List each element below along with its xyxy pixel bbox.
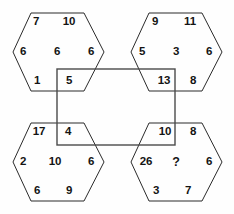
hex-top-left-center: 6 (46, 46, 68, 58)
hex-bottom-left-center: 10 (44, 156, 66, 168)
hex-bottom-right-corner-left: 26 (135, 156, 157, 168)
hex-bottom-left-corner-bottom-right: 9 (58, 185, 80, 197)
hex-bottom-left-corner-bottom-left: 6 (26, 185, 48, 197)
hex-top-right-corner-top-left: 9 (144, 16, 166, 28)
hex-bottom-right-corner-top-right: 8 (182, 126, 204, 138)
hex-top-right-corner-bottom-left: 13 (153, 75, 175, 87)
hexagon-puzzle-figure: 7 10 6 6 6 1 5 9 11 5 3 6 13 8 17 4 2 10… (0, 0, 234, 214)
hex-top-left-corner-top-right: 10 (58, 16, 80, 28)
hex-bottom-right-corner-right: 6 (198, 156, 220, 168)
hex-bottom-right-corner-bottom-left: 3 (145, 185, 167, 197)
hex-top-left-corner-bottom-left: 1 (26, 75, 48, 87)
hex-bottom-right-center: ? (165, 156, 187, 169)
hex-top-right-corner-left: 5 (131, 46, 153, 58)
hex-top-left-corner-bottom-right: 5 (58, 75, 80, 87)
hex-bottom-left-corner-top-right: 4 (57, 126, 79, 138)
hex-bottom-right-corner-top-left: 10 (154, 126, 176, 138)
hex-top-right-center: 3 (165, 46, 187, 58)
hex-top-right-corner-top-right: 11 (179, 16, 201, 28)
hex-top-left-corner-left: 6 (12, 46, 34, 58)
hex-bottom-left-corner-top-left: 17 (28, 126, 50, 138)
hex-top-left-corner-right: 6 (80, 46, 102, 58)
hex-top-right-corner-bottom-right: 8 (182, 75, 204, 87)
hex-top-left-corner-top-left: 7 (25, 16, 47, 28)
hex-bottom-left-corner-left: 2 (12, 156, 34, 168)
puzzle-line-art (0, 0, 234, 214)
hex-bottom-right-corner-bottom-right: 7 (177, 185, 199, 197)
hex-bottom-left-corner-right: 6 (80, 156, 102, 168)
hex-top-right-corner-right: 6 (198, 46, 220, 58)
